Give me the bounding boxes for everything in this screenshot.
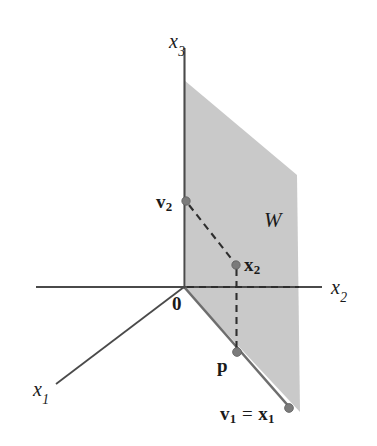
point-marker-v1x1 [285, 404, 294, 413]
projection-diagram: x3 x2 x1 v2 x2 W 0 p v1 = x1 [0, 0, 377, 446]
axis-label-x2: x2 [331, 277, 347, 302]
axis-label-x2-base: x [331, 276, 340, 298]
axis-label-x1-base: x [33, 378, 42, 400]
point-label-x2-base: x [244, 254, 254, 275]
point-label-v1-sub: 1 [230, 411, 236, 426]
point-marker-p [233, 348, 242, 357]
point-label-x2: x2 [244, 255, 260, 274]
axis-label-x2-sub: 2 [340, 290, 347, 305]
point-label-v2: v2 [156, 192, 172, 211]
point-label-x2-sub: 2 [254, 262, 260, 277]
equals-sign: = [236, 403, 258, 424]
origin-label: 0 [172, 294, 182, 313]
axis-label-x3-sub: 3 [178, 44, 185, 59]
axis-label-x3: x3 [169, 31, 185, 56]
point-label-p: p [217, 356, 228, 375]
axis-x1-line [56, 287, 184, 384]
subspace-plane-W [184, 80, 300, 412]
point-label-v1-equals-x1: v1 = x1 [220, 404, 274, 423]
point-label-v2-base: v [156, 191, 166, 212]
point-label-v1-base: v [220, 403, 230, 424]
point-label-x1-sub: 1 [268, 411, 274, 426]
point-marker-x2 [232, 261, 240, 269]
point-label-x1-base: x [258, 403, 268, 424]
axis-label-x1-sub: 1 [42, 392, 49, 407]
point-marker-v2 [182, 197, 190, 205]
axis-label-x1: x1 [33, 379, 49, 404]
axis-label-x3-base: x [169, 30, 178, 52]
diagram-canvas [0, 0, 377, 446]
point-label-v2-sub: 2 [166, 199, 172, 214]
plane-label-W: W [264, 210, 282, 231]
